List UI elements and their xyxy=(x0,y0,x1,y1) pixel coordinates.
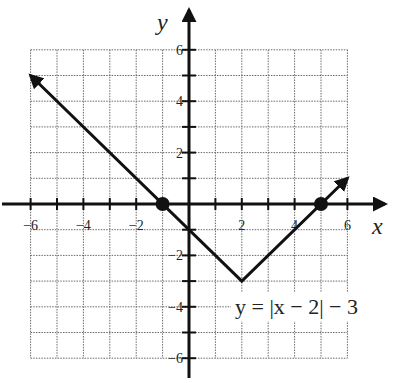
y-tick-label: −6 xyxy=(168,351,183,366)
y-tick-label: −2 xyxy=(168,248,183,263)
x-axis-label: x xyxy=(371,213,383,239)
y-tick-label: 2 xyxy=(176,146,183,161)
x-tick-label: 6 xyxy=(344,218,351,233)
x-tick-label: −4 xyxy=(76,218,91,233)
x-intercept-point xyxy=(314,197,328,211)
x-tick-label: −2 xyxy=(129,218,144,233)
y-axis-label: y xyxy=(155,9,168,35)
y-tick-label: −4 xyxy=(168,300,183,315)
equation-label: y = |x − 2| − 3 xyxy=(235,294,358,319)
graph-plot: −6−4−2246642−2−4−6 x y y = |x − 2| − 3 xyxy=(0,0,397,383)
y-tick-label: 6 xyxy=(176,43,183,58)
y-tick-label: 4 xyxy=(176,94,183,109)
x-tick-label: 2 xyxy=(238,218,245,233)
axes xyxy=(2,10,385,378)
x-tick-label: −6 xyxy=(23,218,38,233)
x-intercept-point xyxy=(156,197,170,211)
